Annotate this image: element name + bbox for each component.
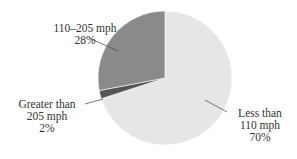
label-110-205: 110–205 mph 28% [45, 22, 125, 46]
label-greater-than-205: Greater than 205 mph 2% [12, 98, 82, 134]
label-less-than-110: Less than 110 mph 70% [225, 107, 295, 143]
leader-line-greater-than-205 [85, 99, 103, 104]
